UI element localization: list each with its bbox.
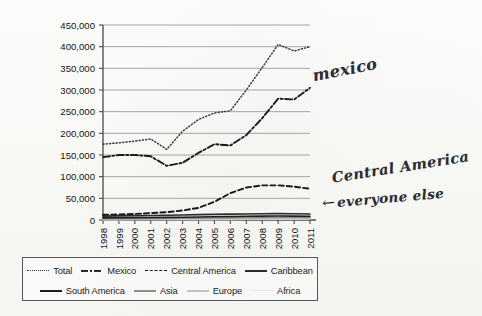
- left-arrow-icon: ←: [321, 193, 335, 212]
- y-tick-label: 450,000: [60, 20, 95, 31]
- legend-item-asia[interactable]: Asia: [134, 286, 178, 296]
- x-tick-label: 2011: [305, 228, 316, 249]
- x-tick-label: 2009: [273, 228, 284, 249]
- x-axis-labels: 1998199920002001200220032004200520062007…: [98, 227, 316, 249]
- x-tick-label: 2007: [241, 228, 252, 249]
- x-tick-label: 2006: [225, 228, 236, 249]
- y-tick-label: 400,000: [60, 41, 95, 52]
- legend-label: Total: [53, 266, 72, 276]
- legend-label: Asia: [160, 286, 178, 296]
- x-tick-label: 2000: [129, 228, 140, 249]
- y-tick-label: 200,000: [60, 128, 95, 139]
- legend-item-central-america[interactable]: Central America: [145, 266, 236, 276]
- x-tick-label: 2001: [145, 228, 156, 249]
- legend-item-mexico[interactable]: Mexico: [81, 266, 136, 276]
- x-tick-label: 2005: [209, 228, 220, 249]
- legend-item-caribbean[interactable]: Caribbean: [245, 266, 313, 276]
- y-tick-label: 50,000: [66, 193, 95, 204]
- series-line-mexico: [103, 88, 310, 166]
- legend-label: South America: [66, 286, 125, 296]
- legend-label: Caribbean: [271, 266, 313, 276]
- legend-label: Central America: [171, 266, 236, 276]
- chart-canvas: 050,000100,000150,000200,000250,000300,0…: [0, 0, 482, 250]
- legend-item-europe[interactable]: Europe: [187, 286, 242, 296]
- y-tick-label: 300,000: [60, 85, 95, 96]
- legend-item-total[interactable]: Total: [27, 266, 72, 276]
- y-tick-label: 150,000: [60, 150, 95, 161]
- x-tick-label: 1999: [114, 228, 125, 249]
- y-tick-label: 250,000: [60, 106, 95, 117]
- x-tick-label: 2002: [161, 228, 172, 249]
- y-tick-label: 350,000: [60, 63, 95, 74]
- legend-row-primary: TotalMexicoCentral AmericaCaribbean: [23, 261, 317, 281]
- legend-label: Mexico: [107, 266, 136, 276]
- gridlines: [103, 25, 310, 198]
- line-chart: 050,000100,000150,000200,000250,000300,0…: [0, 0, 482, 250]
- x-tick-label: 1998: [98, 228, 109, 249]
- series-line-central-america: [103, 185, 310, 214]
- y-tick-label: 0: [90, 215, 95, 226]
- y-tick-label: 100,000: [60, 171, 95, 182]
- legend-item-south-america[interactable]: South America: [40, 286, 125, 296]
- legend-label: Africa: [277, 286, 300, 296]
- legend-item-africa[interactable]: Africa: [251, 286, 300, 296]
- x-tick-label: 2010: [289, 228, 300, 249]
- legend-row-secondary: South AmericaAsiaEuropeAfrica: [23, 281, 317, 301]
- x-tick-label: 2004: [193, 227, 204, 249]
- legend-label: Europe: [213, 286, 242, 296]
- y-axis-labels: 050,000100,000150,000200,000250,000300,0…: [60, 20, 95, 226]
- x-tick-label: 2008: [257, 228, 268, 249]
- chart-legend: TotalMexicoCentral AmericaCaribbean Sout…: [22, 257, 318, 301]
- x-tick-label: 2003: [177, 228, 188, 249]
- data-series: [103, 45, 310, 220]
